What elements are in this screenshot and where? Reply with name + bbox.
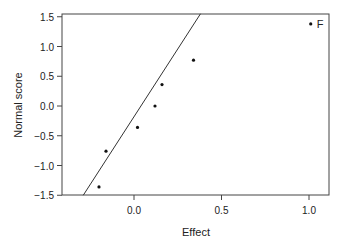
y-tick-label: 1.5 — [40, 12, 54, 23]
y-tick-label: −0.5 — [34, 131, 54, 142]
plot-frame — [62, 14, 329, 195]
data-point — [309, 22, 312, 25]
x-axis-label: Effect — [182, 226, 210, 238]
y-tick-label: −1.5 — [34, 190, 54, 201]
normal-probability-plot: −1.5−1.0−0.50.00.51.01.5 0.00.51.0 F Eff… — [0, 0, 346, 242]
data-point — [136, 126, 139, 129]
y-axis-ticks: −1.5−1.0−0.50.00.51.01.5 — [34, 12, 62, 202]
x-tick-label: 0.0 — [127, 205, 141, 216]
y-tick-label: 0.5 — [40, 71, 54, 82]
y-axis-label: Normal score — [12, 72, 24, 137]
y-tick-label: 0.0 — [40, 101, 54, 112]
x-tick-label: 0.5 — [215, 205, 229, 216]
x-tick-label: 1.0 — [302, 205, 316, 216]
data-points: F — [97, 18, 323, 189]
point-label: F — [317, 18, 324, 30]
data-point — [192, 59, 195, 62]
data-point — [104, 150, 107, 153]
reference-line — [83, 14, 200, 195]
y-tick-label: −1.0 — [34, 161, 54, 172]
data-point — [160, 83, 163, 86]
x-axis-ticks: 0.00.51.0 — [127, 195, 316, 216]
y-tick-label: 1.0 — [40, 42, 54, 53]
data-point — [153, 104, 156, 107]
data-point — [97, 185, 100, 188]
